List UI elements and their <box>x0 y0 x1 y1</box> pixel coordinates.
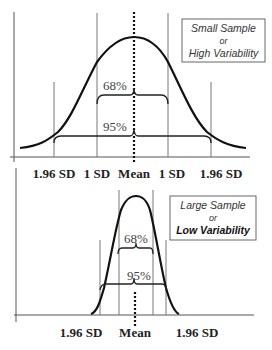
top-95-bracket <box>54 128 211 143</box>
top-caption-line-2: or <box>219 36 228 46</box>
top-68-label: 68% <box>103 78 127 93</box>
top-label-plus-1-96sd: 1.96 SD <box>200 166 243 181</box>
top-panel: 68% 95% Small Sample or High Variability… <box>10 12 265 181</box>
bottom-95-label: 95% <box>127 268 151 283</box>
top-label-mean: Mean <box>118 166 151 181</box>
normal-distribution-diagram: 68% 95% Small Sample or High Variability… <box>0 0 272 350</box>
bottom-label-mean: Mean <box>119 325 152 340</box>
bottom-caption-line-3: Low Variability <box>176 224 251 236</box>
top-label-minus-1-96sd: 1.96 SD <box>33 166 76 181</box>
top-caption-line-1: Small Sample <box>191 22 256 34</box>
top-caption-line-3: High Variability <box>189 47 259 59</box>
bottom-label-plus-1-96sd: 1.96 SD <box>176 325 219 340</box>
bottom-label-minus-1-96sd: 1.96 SD <box>60 325 103 340</box>
bottom-caption-line-2: or <box>209 213 218 223</box>
bottom-68-label: 68% <box>124 231 148 246</box>
top-95-label: 95% <box>103 119 127 134</box>
bottom-caption-line-1: Large Sample <box>180 199 246 211</box>
top-label-plus-1sd: 1 SD <box>159 166 185 181</box>
top-label-minus-1sd: 1 SD <box>84 166 110 181</box>
bottom-panel: 68% 95% Large Sample or Low Variability … <box>14 168 256 340</box>
